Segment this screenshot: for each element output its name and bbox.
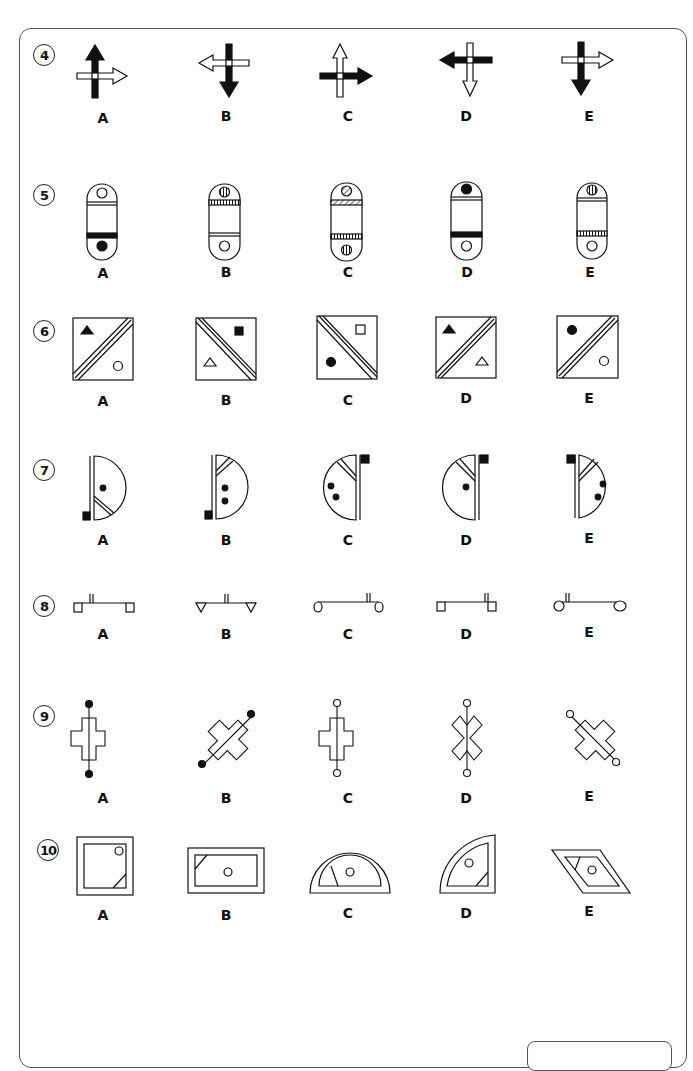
q10-a-framed-square-icon [77, 837, 133, 895]
q10-option-d[interactable]: D [451, 905, 481, 921]
q10-e-framed-parallelogram-icon [552, 850, 630, 893]
q10-c-framed-semicircle-icon [310, 853, 390, 893]
q10-option-a[interactable]: A [88, 907, 118, 923]
q10-d-framed-quarter-icon [440, 835, 495, 893]
q10-figures [0, 0, 693, 920]
q10-option-c[interactable]: C [333, 905, 363, 921]
q10-option-b[interactable]: B [211, 907, 241, 923]
bottom-tab-box [527, 1041, 672, 1071]
q10-b-framed-rect-icon [188, 848, 264, 893]
q10-option-e[interactable]: E [574, 903, 604, 919]
